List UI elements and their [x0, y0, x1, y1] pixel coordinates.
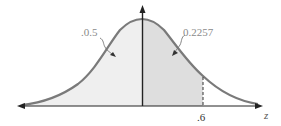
normal-distribution-figure: .0.5 0.2257 .6 z	[0, 0, 281, 126]
x-tick-label-0-6: .6	[197, 112, 205, 123]
normal-curve-plot	[0, 0, 281, 126]
x-axis-left-arrow-icon	[17, 103, 25, 109]
x-axis-right-arrow-icon	[255, 103, 263, 109]
z-axis-label: z	[264, 110, 268, 121]
y-axis-up-arrow-icon	[140, 5, 146, 13]
left-area-label: .0.5	[81, 27, 98, 38]
right-area-label: 0.2257	[183, 27, 213, 38]
